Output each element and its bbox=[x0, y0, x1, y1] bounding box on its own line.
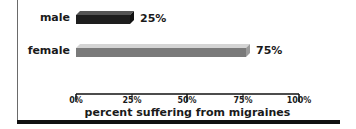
tick-label-50: 50% bbox=[167, 96, 207, 105]
bar-male bbox=[76, 11, 134, 24]
tick-label-100: 100% bbox=[279, 96, 319, 105]
tick-label-75: 75% bbox=[223, 96, 263, 105]
x-axis-title: percent suffering from migraines bbox=[76, 106, 299, 119]
tick-label-25: 25% bbox=[112, 96, 152, 105]
value-label-female: 75% bbox=[256, 44, 282, 57]
tick-label-0: 0% bbox=[56, 96, 96, 105]
bar-female bbox=[76, 44, 250, 57]
value-label-male: 25% bbox=[140, 12, 166, 25]
